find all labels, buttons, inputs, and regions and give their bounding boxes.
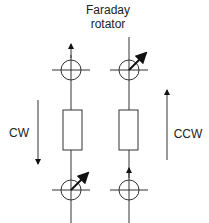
right-top-rotated-arrow — [129, 53, 146, 70]
right-rotator-box — [119, 110, 138, 150]
left-rotator-box — [63, 110, 82, 150]
left-bottom-rotated-arrow — [71, 173, 88, 190]
faraday-diagram — [0, 0, 209, 223]
